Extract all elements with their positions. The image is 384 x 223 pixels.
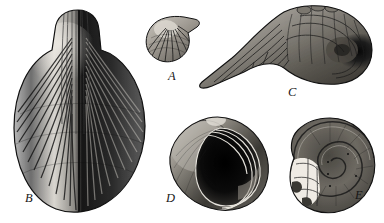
specimen-label-a: A [168, 70, 176, 83]
specimen-label-e: E [355, 189, 363, 202]
specimen-label-b: B [25, 192, 33, 205]
specimen-e-figure [284, 114, 380, 218]
specimen-d-figure [164, 112, 278, 216]
specimen-b-figure [6, 4, 152, 220]
specimen-label-d: D [166, 192, 175, 205]
specimen-b-body [6, 4, 152, 220]
specimen-label-c: C [288, 86, 297, 99]
specimen-c-body [192, 2, 384, 94]
specimen-c-figure [192, 2, 384, 94]
specimen-d-body [164, 112, 278, 216]
specimen-b-median-line [78, 9, 80, 215]
specimen-d-apex [206, 114, 226, 126]
fossil-plate: A B C D E [0, 0, 384, 223]
